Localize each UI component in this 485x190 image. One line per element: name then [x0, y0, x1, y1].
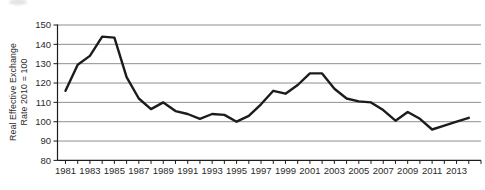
x-tick-label: 1989	[153, 165, 174, 176]
x-tick-label: 1995	[226, 165, 247, 176]
x-tick-label: 1987	[128, 165, 149, 176]
chart-canvas: 8090100110120130140150198119831985198719…	[0, 0, 485, 190]
y-tick-label: 140	[35, 39, 51, 50]
x-tick-label: 2005	[348, 165, 369, 176]
x-tick-label: 2003	[324, 165, 345, 176]
x-tick-label: 1993	[202, 165, 223, 176]
x-tick-label: 2011	[422, 165, 442, 176]
y-tick-label: 130	[35, 58, 51, 69]
y-tick-label: 90	[40, 135, 51, 146]
x-tick-label: 1983	[79, 165, 100, 176]
y-tick-label: 150	[35, 19, 51, 30]
x-tick-label: 2007	[373, 165, 394, 176]
x-tick-label: 1997	[250, 165, 271, 176]
x-tick-label: 1981	[55, 165, 76, 176]
x-tick-label: 2013	[446, 165, 467, 176]
x-tick-label: 1991	[177, 165, 198, 176]
y-tick-label: 100	[35, 116, 51, 127]
reer-line-chart-figure: Real Effective Exchange Rate 2010 = 100 …	[0, 0, 485, 190]
y-tick-label: 80	[40, 155, 51, 166]
x-tick-label: 1985	[104, 165, 125, 176]
x-tick-label: 2009	[397, 165, 418, 176]
y-tick-label: 110	[36, 97, 51, 108]
x-tick-label: 1999	[275, 165, 296, 176]
x-tick-label: 2001	[299, 165, 320, 176]
y-tick-label: 120	[35, 77, 51, 88]
